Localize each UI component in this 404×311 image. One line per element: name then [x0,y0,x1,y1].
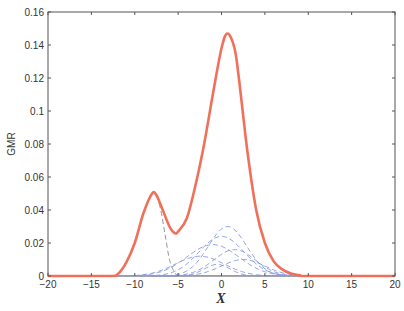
gmr-chart: −20−15−10−505101520 00.020.040.060.080.1… [0,0,404,311]
y-tick-label: 0.16 [25,7,45,18]
x-tick-label: −15 [83,279,100,290]
x-tick-label: 20 [389,279,401,290]
x-tick-label: −5 [172,279,184,290]
y-tick-label: 0.14 [25,40,45,51]
y-tick-label: 0.12 [25,73,45,84]
y-tick-label: 0.02 [25,238,45,249]
x-tick-label: 0 [219,279,225,290]
x-tick-label: 5 [262,279,268,290]
x-tick-label: 15 [346,279,358,290]
y-tick-label: 0.06 [25,172,45,183]
y-tick-label: 0.04 [25,205,45,216]
y-axis-label: GMR [6,132,17,155]
x-axis-label: X [215,291,226,306]
y-tick-label: 0 [38,271,44,282]
y-tick-label: 0.1 [30,106,44,117]
x-tick-label: 10 [303,279,315,290]
y-tick-label: 0.08 [25,139,45,150]
x-tick-label: −10 [126,279,143,290]
